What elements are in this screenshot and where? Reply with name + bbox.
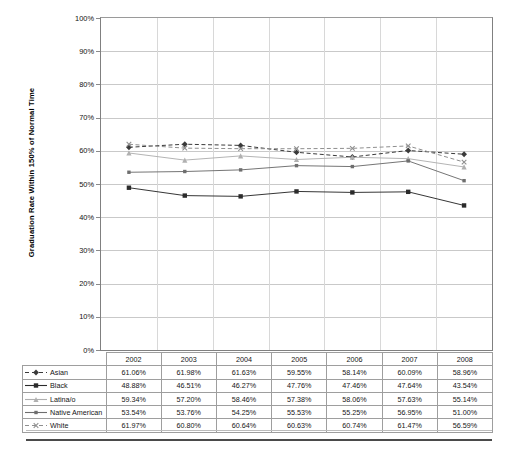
legend-cell-asian: Asian bbox=[23, 366, 107, 379]
table-cell-value: 57.20% bbox=[161, 392, 216, 405]
data-point-marker bbox=[462, 203, 466, 207]
data-point-marker bbox=[126, 144, 132, 150]
legend-key-square-filled-icon bbox=[25, 381, 47, 390]
line-chart: Graduation Rate Within 150% of Normal Ti… bbox=[0, 0, 528, 360]
y-tick-label: 100% bbox=[56, 14, 94, 23]
y-tick-label: 90% bbox=[56, 47, 94, 56]
divider-light bbox=[26, 430, 492, 431]
table-header-year: 2005 bbox=[272, 353, 327, 366]
data-point-marker bbox=[461, 151, 467, 157]
table-cell-value: 58.14% bbox=[327, 366, 382, 379]
data-point-marker bbox=[183, 170, 186, 173]
legend-label: Asian bbox=[50, 368, 68, 377]
y-tick-label: 50% bbox=[56, 180, 94, 189]
data-point-marker bbox=[462, 179, 465, 182]
legend-key-triangle-icon bbox=[25, 395, 47, 404]
table-cell-value: 59.34% bbox=[106, 392, 161, 405]
data-point-marker bbox=[294, 189, 298, 193]
table-cell-value: 47.76% bbox=[272, 379, 327, 392]
table-cell-value: 46.51% bbox=[161, 379, 216, 392]
table-cell-value: 57.38% bbox=[272, 392, 327, 405]
table-cell-value: 51.00% bbox=[437, 406, 492, 419]
y-tick-label: 10% bbox=[56, 312, 94, 321]
data-point-marker bbox=[406, 190, 410, 194]
data-point-marker bbox=[33, 370, 39, 376]
data-point-marker bbox=[462, 160, 467, 165]
table-cell-value: 58.96% bbox=[437, 366, 492, 379]
table-cell-value: 55.53% bbox=[272, 406, 327, 419]
series-line bbox=[129, 161, 464, 181]
y-tick-label: 40% bbox=[56, 213, 94, 222]
table-cell-value: 59.55% bbox=[272, 366, 327, 379]
table-cell-value: 47.46% bbox=[327, 379, 382, 392]
table-cell-value: 48.88% bbox=[106, 379, 161, 392]
table-cell-value: 61.06% bbox=[106, 366, 161, 379]
table-row: Latina/o59.34%57.20%58.46%57.38%58.06%57… bbox=[23, 392, 493, 405]
table-header-year: 2004 bbox=[216, 353, 271, 366]
chart-figure: Graduation Rate Within 150% of Normal Ti… bbox=[0, 0, 528, 451]
plot-area bbox=[100, 17, 493, 351]
legend-cell-native-american: Native American bbox=[23, 406, 107, 419]
table-cell-value: 46.27% bbox=[216, 379, 271, 392]
table-cell-value: 61.63% bbox=[216, 366, 271, 379]
data-point-marker bbox=[34, 411, 37, 414]
table-cell-value: 58.06% bbox=[327, 392, 382, 405]
series-native-american bbox=[127, 159, 466, 182]
table-cell-value: 47.64% bbox=[382, 379, 437, 392]
series-lines bbox=[101, 18, 492, 350]
table-cell-value: 55.14% bbox=[437, 392, 492, 405]
data-point-marker bbox=[295, 164, 298, 167]
table-header-row: 2002200320042005200620072008 bbox=[23, 353, 493, 366]
legend-label: Black bbox=[50, 381, 68, 390]
table-cell-value: 61.98% bbox=[161, 366, 216, 379]
legend-cell-black: Black bbox=[23, 379, 107, 392]
legend-label: White bbox=[50, 421, 68, 430]
table-header-year: 2007 bbox=[382, 353, 437, 366]
table-row: Asian61.06%61.98%61.63%59.55%58.14%60.09… bbox=[23, 366, 493, 379]
data-point-marker bbox=[127, 186, 131, 190]
data-point-marker bbox=[183, 193, 187, 197]
legend-cell-latina-o: Latina/o bbox=[23, 392, 107, 405]
data-point-marker bbox=[407, 159, 410, 162]
table-cell-value: 58.46% bbox=[216, 392, 271, 405]
table-header-year: 2006 bbox=[327, 353, 382, 366]
y-tick-label: 80% bbox=[56, 80, 94, 89]
table-cell-value: 54.25% bbox=[216, 406, 271, 419]
data-point-marker bbox=[239, 168, 242, 171]
table-corner-cell bbox=[23, 353, 107, 366]
table-cell-value: 53.76% bbox=[161, 406, 216, 419]
y-tick-label: 30% bbox=[56, 246, 94, 255]
table-cell-value: 55.25% bbox=[327, 406, 382, 419]
data-table-legend: 2002200320042005200620072008 Asian61.06%… bbox=[22, 352, 493, 433]
y-tick-label: 20% bbox=[56, 279, 94, 288]
legend-key-diamond-icon bbox=[25, 368, 47, 377]
table-cell-value: 60.09% bbox=[382, 366, 437, 379]
table-row: Black48.88%46.51%46.27%47.76%47.46%47.64… bbox=[23, 379, 493, 392]
table-header-year: 2008 bbox=[437, 353, 492, 366]
data-table: 2002200320042005200620072008 Asian61.06%… bbox=[22, 352, 493, 433]
divider-dark bbox=[26, 439, 492, 441]
y-tick-label: 60% bbox=[56, 146, 94, 155]
data-point-marker bbox=[127, 171, 130, 174]
table-header-year: 2003 bbox=[161, 353, 216, 366]
y-tick-label: 70% bbox=[56, 113, 94, 122]
legend-key-x-icon bbox=[25, 421, 47, 430]
table-cell-value: 57.63% bbox=[382, 392, 437, 405]
y-axis-title: Graduation Rate Within 150% of Normal Ti… bbox=[27, 23, 36, 323]
table-row: Native American53.54%53.76%54.25%55.53%5… bbox=[23, 406, 493, 419]
legend-label: Latina/o bbox=[50, 395, 76, 404]
table-cell-value: 53.54% bbox=[106, 406, 161, 419]
data-point-marker bbox=[238, 194, 242, 198]
table-body: Asian61.06%61.98%61.63%59.55%58.14%60.09… bbox=[23, 366, 493, 432]
table-header-year: 2002 bbox=[106, 353, 161, 366]
data-point-marker bbox=[34, 384, 38, 388]
data-point-marker bbox=[350, 190, 354, 194]
table-cell-value: 43.54% bbox=[437, 379, 492, 392]
series-black bbox=[127, 186, 467, 208]
data-point-marker bbox=[351, 165, 354, 168]
legend-key-square-icon bbox=[25, 408, 47, 417]
legend-label: Native American bbox=[50, 408, 102, 417]
table-cell-value: 56.95% bbox=[382, 406, 437, 419]
